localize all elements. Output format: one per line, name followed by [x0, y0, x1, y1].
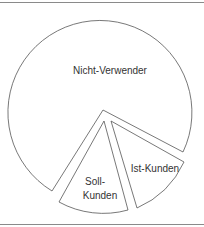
label-ist-kunden: Ist-Kunden — [131, 163, 179, 174]
label-soll-kunden-1: Soll- — [85, 176, 105, 187]
pie-chart: Nicht-Verwender Ist-Kunden Soll- Kunden — [0, 0, 204, 227]
label-nicht-verwender: Nicht-Verwender — [73, 65, 148, 76]
label-soll-kunden-2: Kunden — [83, 190, 117, 201]
